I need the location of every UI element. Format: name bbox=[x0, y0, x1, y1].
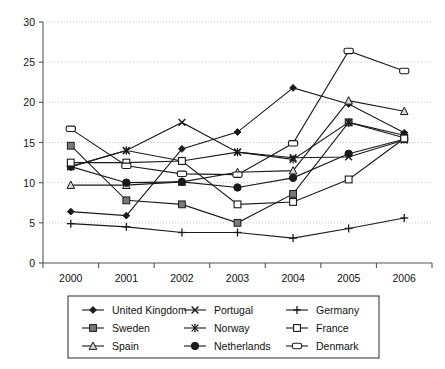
y-tick-label: 30 bbox=[23, 16, 35, 28]
x-tick-label: 2002 bbox=[170, 272, 194, 284]
data-point bbox=[289, 174, 296, 181]
data-point bbox=[288, 141, 297, 146]
legend-label: Netherlands bbox=[214, 340, 271, 352]
data-point bbox=[233, 172, 242, 177]
legend-label: Norway bbox=[214, 322, 250, 334]
data-point bbox=[400, 68, 409, 73]
data-point bbox=[122, 163, 131, 168]
data-point bbox=[123, 197, 130, 204]
chart-legend: United KingdomPortugalGermanySwedenNorwa… bbox=[68, 296, 379, 358]
chart-canvas: 051015202530 200020012002200320042005200… bbox=[0, 0, 445, 369]
legend-label: United Kingdom bbox=[112, 304, 187, 316]
x-tick-label: 2005 bbox=[337, 272, 361, 284]
x-tick-label: 2006 bbox=[393, 272, 417, 284]
data-point bbox=[344, 48, 353, 53]
data-point bbox=[234, 184, 241, 191]
data-point bbox=[401, 135, 408, 142]
data-point bbox=[290, 199, 297, 206]
y-tick-label: 20 bbox=[23, 96, 35, 108]
x-tick-label: 2003 bbox=[226, 272, 250, 284]
data-point bbox=[67, 159, 74, 166]
data-point bbox=[123, 179, 130, 186]
legend-label: Spain bbox=[112, 340, 139, 352]
y-tick-label: 5 bbox=[29, 217, 35, 229]
y-tick-label: 15 bbox=[23, 137, 35, 149]
data-point bbox=[234, 201, 241, 208]
line-chart: 051015202530 200020012002200320042005200… bbox=[0, 0, 445, 369]
legend-label: Sweden bbox=[112, 322, 150, 334]
legend-marker bbox=[90, 325, 97, 332]
x-tick-label: 2001 bbox=[115, 272, 139, 284]
data-point bbox=[290, 191, 297, 198]
y-tick-label: 0 bbox=[29, 257, 35, 269]
data-point bbox=[234, 219, 241, 226]
legend-label: Germany bbox=[316, 304, 360, 316]
legend-marker bbox=[191, 342, 198, 349]
x-tick-label: 2000 bbox=[59, 272, 83, 284]
x-tick-label: 2004 bbox=[281, 272, 305, 284]
legend-marker bbox=[292, 343, 301, 348]
data-point bbox=[345, 176, 352, 183]
legend-marker bbox=[294, 325, 301, 332]
legend-label: Denmark bbox=[316, 340, 359, 352]
data-point bbox=[177, 171, 186, 176]
y-tick-label: 10 bbox=[23, 177, 35, 189]
legend-label: Portugal bbox=[214, 304, 253, 316]
data-point bbox=[179, 201, 186, 208]
data-point bbox=[178, 178, 185, 185]
data-point bbox=[67, 142, 74, 149]
data-point bbox=[66, 126, 75, 131]
y-tick-label: 25 bbox=[23, 56, 35, 68]
data-point bbox=[345, 150, 352, 157]
data-point bbox=[179, 158, 186, 165]
legend-label: France bbox=[316, 322, 349, 334]
